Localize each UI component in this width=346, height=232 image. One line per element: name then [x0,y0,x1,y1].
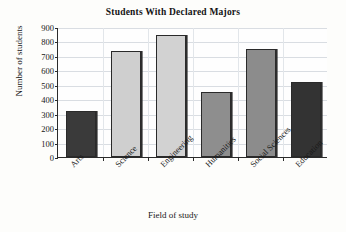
y-tick-label: 700 [41,52,54,62]
y-tick-label: 600 [41,66,54,76]
bar-arts [66,111,96,157]
y-tick-label: 400 [41,95,54,105]
x-axis-title: Field of study [0,210,346,220]
bar-chart-figure: Students With Declared Majors Number of … [0,0,346,232]
y-tick-label: 800 [41,37,54,47]
x-tick-mark [103,157,104,161]
y-tick-mark [55,158,59,159]
y-tick-label: 900 [41,23,54,33]
chart-title: Students With Declared Majors [0,7,346,17]
bar-science [111,51,141,157]
x-tick-mark [193,157,194,161]
y-tick-label: 200 [41,124,54,134]
y-tick-label: 0 [50,153,54,163]
y-tick-label: 100 [41,139,54,149]
y-tick-label: 300 [41,110,54,120]
x-tick-mark [238,157,239,161]
x-tick-mark [283,157,284,161]
y-tick-label: 500 [41,81,54,91]
x-tick-mark [148,157,149,161]
y-axis-title: Number of students [14,0,24,126]
